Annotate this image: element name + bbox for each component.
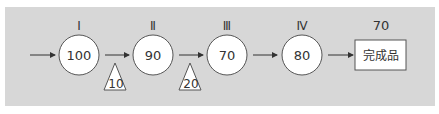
loss-value: 10 — [108, 77, 123, 91]
output: 70 完成品 — [355, 18, 406, 70]
loss-value: 20 — [183, 77, 198, 91]
stage-value: 100 — [67, 48, 92, 63]
output-quantity: 70 — [373, 18, 390, 33]
stage-4: Ⅳ 80 — [282, 19, 322, 75]
stage-3: Ⅲ 70 — [207, 19, 247, 75]
stage-value: 90 — [145, 48, 162, 63]
stage-label: Ⅳ — [296, 19, 307, 33]
stage-label: Ⅱ — [150, 19, 156, 33]
loss-2: 20 — [179, 63, 201, 91]
stage-label: Ⅰ — [77, 19, 81, 33]
loss-1: 10 — [104, 63, 126, 91]
stage-value: 70 — [219, 48, 236, 63]
stage-label: Ⅲ — [223, 19, 231, 33]
stage-2: Ⅱ 90 — [133, 19, 173, 75]
stage-value: 80 — [294, 48, 311, 63]
stage-1: Ⅰ 100 — [59, 19, 99, 75]
process-flow-diagram: Ⅰ 100 Ⅱ 90 Ⅲ 70 Ⅳ 80 10 20 70 完成品 — [0, 0, 439, 114]
output-label: 完成品 — [363, 48, 399, 63]
